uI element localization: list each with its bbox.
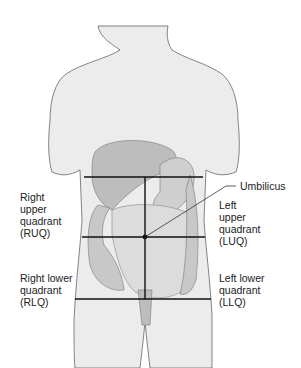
label-umbilicus: Umbilicus: [240, 180, 286, 192]
label-llq: Left lower quadrant (LLQ): [219, 272, 265, 308]
label-luq: Left upper quadrant (LUQ): [219, 199, 260, 247]
label-rlq: Right lower quadrant (RLQ): [20, 272, 73, 308]
label-ruq: Right upper quadrant (RUQ): [20, 191, 61, 239]
abdominal-quadrant-diagram: Umbilicus Right upper quadrant (RUQ) Lef…: [0, 0, 301, 368]
